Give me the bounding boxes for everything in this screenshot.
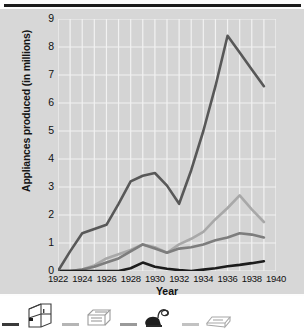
y-tick-4: 4 (38, 152, 54, 164)
chart-screenshot: Appliances produced (in millions) 012345… (0, 0, 304, 331)
series-line-washing-machine (58, 195, 264, 271)
radio-icon (201, 301, 237, 331)
refrigerator-icon (21, 301, 57, 331)
y-tick-6: 6 (38, 96, 54, 108)
legend-line-swatch (120, 323, 137, 326)
y-tick-3: 3 (38, 180, 54, 192)
y-tick-7: 7 (38, 68, 54, 80)
washing-machine-icon (81, 301, 117, 331)
legend-item-washing-machine[interactable] (62, 296, 117, 331)
y-tick-5: 5 (38, 124, 54, 136)
top-divider-rule (4, 4, 301, 7)
line-chart-svg (58, 19, 276, 271)
legend-line-swatch (62, 323, 79, 326)
y-tick-9: 9 (38, 12, 54, 24)
chart-legend (0, 296, 304, 331)
legend-item-vacuum-cleaner[interactable] (120, 296, 175, 331)
y-tick-2: 2 (38, 208, 54, 220)
legend-line-swatch (182, 323, 199, 326)
y-tick-8: 8 (38, 40, 54, 52)
vacuum-cleaner-icon (139, 301, 175, 331)
legend-line-swatch (2, 323, 19, 326)
chart-panel: Appliances produced (in millions) 012345… (0, 9, 304, 294)
legend-item-refrigerator[interactable] (2, 296, 57, 331)
legend-item-radio[interactable] (182, 296, 237, 331)
y-axis-tick-labels: 0123456789 (30, 19, 54, 271)
y-tick-1: 1 (38, 236, 54, 248)
plot-area (58, 19, 276, 271)
x-tick-1940: 1940 (259, 273, 293, 284)
